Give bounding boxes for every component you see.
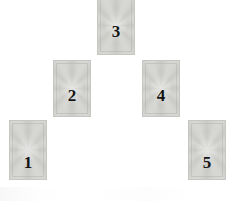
card-number-label: 3 (98, 23, 134, 40)
tarot-card-3[interactable]: 3 (97, 0, 135, 55)
tarot-spread-canvas: 1 2 3 4 5 (0, 0, 234, 203)
tarot-card-1[interactable]: 1 (9, 120, 47, 180)
card-number-label: 5 (189, 154, 225, 171)
scan-artifact (0, 187, 234, 201)
card-number-label: 2 (54, 87, 90, 104)
card-number-label: 1 (10, 154, 46, 171)
tarot-card-4[interactable]: 4 (142, 60, 180, 117)
tarot-card-2[interactable]: 2 (53, 60, 91, 117)
card-number-label: 4 (143, 87, 179, 104)
tarot-card-5[interactable]: 5 (188, 120, 226, 180)
